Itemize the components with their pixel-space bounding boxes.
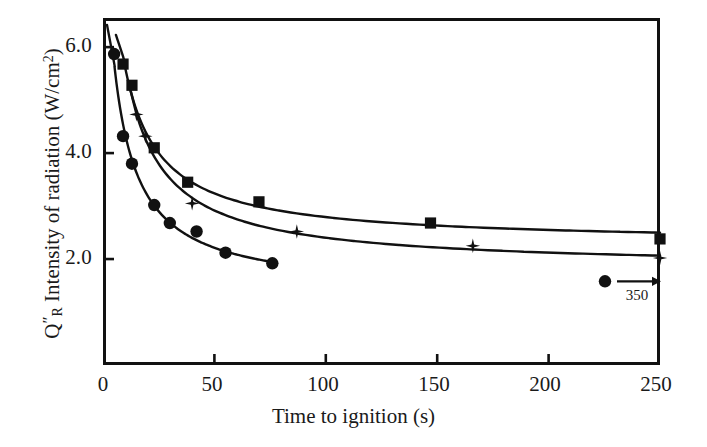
y-axis-title: Q″R Intensity of radiation (W/cm2): [39, 24, 66, 364]
x-tick-label-0: 0: [73, 372, 133, 397]
x-tick-label-200: 200: [515, 372, 575, 397]
y-axis-symbol: Q: [40, 324, 64, 339]
x-tick-label-250: 250: [626, 372, 686, 397]
y-axis-prime: ″: [39, 317, 58, 324]
y-axis-text: Intensity of radiation (W/cm: [40, 62, 64, 307]
y-axis-subscript: R: [50, 307, 65, 316]
plot-frame: [103, 18, 660, 365]
x-tick-label-50: 50: [182, 372, 242, 397]
x-tick-label-150: 150: [404, 372, 464, 397]
x-tick-label-100: 100: [293, 372, 353, 397]
y-axis-superscript: 2: [41, 55, 56, 62]
offscale-annotation-label: 350: [617, 287, 657, 304]
x-axis-title: Time to ignition (s): [0, 404, 707, 429]
figure-canvas: 6.0 4.0 2.0 0 50 100 150 200 250 Time to…: [0, 0, 707, 447]
y-axis-close: ): [40, 48, 64, 55]
